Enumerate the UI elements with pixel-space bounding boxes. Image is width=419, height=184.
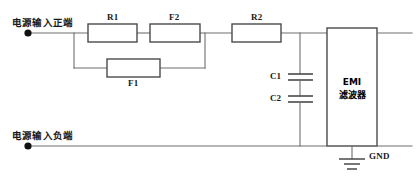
circuit-diagram: 电源输入正端 电源输入负端 R1 F2 R2 F1 C1 C2 EMI 滤波器 … (0, 0, 419, 184)
label-emi-line2: 滤波器 (324, 89, 380, 102)
label-c2: C2 (270, 94, 281, 103)
component-box-f2 (150, 24, 200, 42)
terminal-dot-negative (24, 142, 31, 149)
label-r1: R1 (107, 13, 119, 22)
emi-filter-label-group: EMI 滤波器 (324, 76, 380, 102)
label-c1: C1 (270, 72, 281, 81)
label-negative-terminal: 电源输入负端 (12, 131, 73, 141)
label-gnd: GND (369, 152, 390, 161)
terminal-dot-positive (24, 29, 31, 36)
label-emi-line1: EMI (324, 76, 380, 89)
label-f1: F1 (128, 79, 139, 88)
component-box-f1 (107, 59, 160, 77)
component-box-r2 (232, 24, 281, 42)
label-f2: F2 (169, 13, 180, 22)
label-r2: R2 (251, 13, 263, 22)
label-positive-terminal: 电源输入正端 (12, 18, 73, 28)
component-box-r1 (88, 24, 137, 42)
